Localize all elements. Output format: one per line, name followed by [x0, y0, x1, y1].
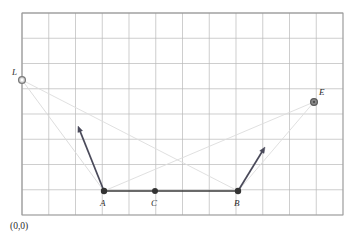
point-label-L: L [12, 68, 17, 77]
vector-at-B-shaft [238, 150, 263, 191]
ray-L-to-B [22, 80, 238, 191]
vector-at-A-shaft [79, 129, 104, 191]
ray-B-to-E [238, 102, 314, 191]
geometry-figure [0, 0, 353, 237]
diagram-canvas: LEACB (0,0) [0, 0, 353, 237]
point-marker-E-core [313, 101, 315, 103]
grid-layer [22, 13, 343, 215]
point-marker-B[interactable] [235, 188, 241, 194]
vectors-layer [78, 126, 265, 191]
point-label-C: C [151, 199, 157, 208]
point-label-E: E [319, 88, 325, 97]
point-label-A: A [100, 199, 106, 208]
ray-L-to-A [22, 80, 104, 191]
point-marker-L-core [21, 79, 24, 82]
light-rays-layer [22, 80, 314, 191]
point-marker-C[interactable] [152, 188, 158, 194]
point-label-B: B [234, 199, 240, 208]
point-marker-A[interactable] [101, 188, 107, 194]
origin-label: (0,0) [10, 222, 28, 232]
vector-at-B-arrowhead [260, 147, 265, 153]
vector-at-A-arrowhead [78, 126, 83, 133]
